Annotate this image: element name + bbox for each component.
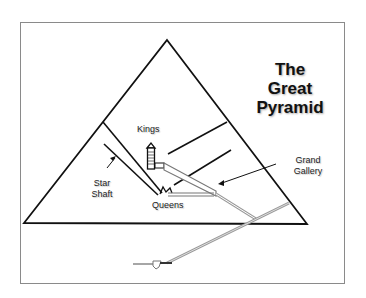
label-star-shaft-line-2: Shaft (90, 189, 114, 200)
label-kings: Kings (137, 124, 160, 135)
subterranean-chamber (133, 261, 172, 269)
label-star-shaft: Star Shaft (90, 178, 114, 200)
ascending-passage-inner (216, 194, 256, 219)
label-grand-gallery-line-1: Grand (290, 155, 326, 166)
label-grand-gallery-line-2: Gallery (290, 166, 326, 177)
pyramid-diagram (0, 0, 366, 298)
inner-right-line (168, 122, 227, 154)
kings-chamber (147, 143, 164, 169)
label-grand-gallery: Grand Gallery (290, 155, 326, 177)
star-shaft-arrow (107, 156, 116, 168)
descending-passage-inner (167, 203, 289, 263)
label-star-shaft-line-1: Star (90, 178, 114, 189)
grand-gallery-arrow (218, 164, 276, 186)
title-line-1: The (255, 60, 325, 79)
title-line-2: Great (255, 79, 325, 98)
label-queens: Queens (152, 200, 184, 211)
diagram-title: The Great Pyramid (255, 60, 325, 117)
title-line-3: Pyramid (255, 98, 325, 117)
